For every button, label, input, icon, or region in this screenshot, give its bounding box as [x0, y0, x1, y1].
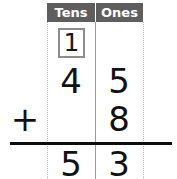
place-value-header: Tens Ones: [47, 3, 143, 22]
carry-digit: 1: [58, 28, 85, 58]
addend1-ones-digit: 5: [95, 62, 143, 100]
header-cell-ones: Ones: [95, 3, 143, 22]
sum-tens-digit: 5: [47, 145, 95, 179]
plus-operator: +: [6, 100, 44, 138]
addend1-tens-digit: 4: [47, 62, 95, 100]
header-cell-tens: Tens: [47, 3, 95, 22]
sum-ones-digit: 3: [95, 145, 143, 179]
addition-worksheet: Tens Ones 1 4 5 + 8 5 3: [0, 0, 177, 179]
addend2-ones-digit: 8: [95, 100, 143, 138]
column-line-right: [143, 22, 144, 179]
